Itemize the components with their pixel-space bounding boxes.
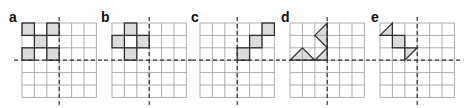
shaded-square [262,23,274,35]
shaded-square [112,35,124,47]
grid-panel-a [12,13,106,107]
shaded-square [22,23,34,35]
shaded-square [22,48,34,60]
shaded-square [137,35,149,47]
grid-panel-c [190,13,284,107]
shaded-square [47,48,59,60]
grid-panel-d [280,13,374,107]
shaded-square [47,23,59,35]
shaded-square [124,48,136,60]
shaded-square [34,35,46,47]
grid-panel-e [370,13,464,107]
shaded-square [237,48,249,60]
shaded-square [124,23,136,35]
shaded-square [392,35,404,47]
grid-panel-b [102,13,196,107]
shaded-square [250,35,262,47]
